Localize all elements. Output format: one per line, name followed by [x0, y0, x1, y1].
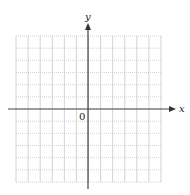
coordinate-plane: x y 0 — [0, 0, 190, 195]
y-axis-label: y — [84, 11, 91, 22]
y-axis-arrow-icon — [85, 23, 91, 30]
x-axis-arrow-icon — [169, 106, 176, 112]
origin-label: 0 — [79, 111, 85, 122]
x-axis-label: x — [179, 103, 185, 114]
